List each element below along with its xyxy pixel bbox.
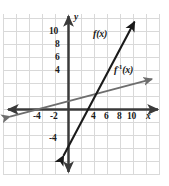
x-tick-neg4: -4 [33, 112, 41, 122]
y-tick-neg4: -4 [49, 134, 57, 144]
x-tick-4: 4 [91, 112, 96, 122]
x-tick-6: 6 [104, 112, 109, 122]
y-tick-4: 4 [55, 66, 60, 76]
x-axis-label: x [146, 112, 151, 122]
y-tick-6: 6 [55, 53, 60, 63]
f-inverse-function-label: f-1(x) [114, 64, 133, 75]
f-inverse-arg: (x) [122, 64, 133, 75]
coordinate-plane [0, 0, 169, 186]
x-tick-neg2: -2 [50, 112, 58, 122]
f-function-label: f(x) [93, 29, 107, 39]
y-axis-label: y [74, 13, 78, 23]
y-tick-10: 10 [49, 27, 58, 37]
x-tick-10: 10 [127, 112, 136, 122]
grid-lines [4, 14, 160, 175]
x-tick-8: 8 [117, 112, 122, 122]
graph-figure: 10 8 6 4 -4 -4 -2 4 6 8 10 y x f(x) f-1(… [0, 0, 169, 186]
y-tick-8: 8 [55, 40, 60, 50]
